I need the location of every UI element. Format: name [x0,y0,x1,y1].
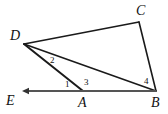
segment-DB [24,44,156,91]
diagram-strokes [22,22,156,94]
vertex-label-d: D [10,29,20,43]
angle-label-1: 1 [65,80,70,89]
angle-label-4: 4 [144,77,149,86]
geometry-diagram: D C B A E 1 2 3 4 [0,0,168,114]
vertex-label-a: A [78,96,87,110]
vertex-label-e: E [6,94,15,108]
vertex-label-b: B [151,96,160,110]
angle-label-2: 2 [50,56,55,65]
segment-DC [24,22,139,44]
arrowhead-icon [22,88,29,94]
angle-label-3: 3 [84,78,89,87]
vertex-label-c: C [136,4,145,18]
segment-DA [24,44,83,91]
